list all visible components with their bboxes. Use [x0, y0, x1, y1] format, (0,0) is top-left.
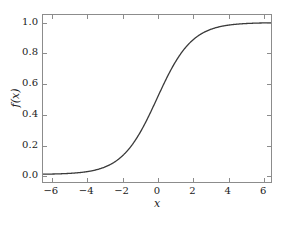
y-tick-label-text: 0.2	[22, 140, 38, 150]
y-tick-label-text: 0.4	[22, 109, 38, 119]
x-tick-label: 4	[225, 186, 231, 196]
x-tick-mark	[52, 178, 53, 182]
y-tick-mark	[43, 146, 47, 147]
x-tick-mark-top	[52, 15, 53, 19]
x-tick-mark-top	[264, 15, 265, 19]
sigmoid-curve-path	[43, 23, 271, 174]
x-tick-label: −6	[43, 186, 58, 196]
x-tick-mark-top	[123, 15, 124, 19]
y-tick-mark	[43, 115, 47, 116]
x-tick-mark-top	[193, 15, 194, 19]
y-tick-mark-right	[267, 146, 271, 147]
x-axis-label: x	[154, 198, 160, 209]
x-tick-label: 6	[260, 186, 266, 196]
x-tick-mark-top	[87, 15, 88, 19]
x-tick-mark-top	[158, 15, 159, 19]
y-tick-label-text: 0.6	[22, 78, 38, 88]
y-tick-mark-right	[267, 53, 271, 54]
y-tick-mark-right	[267, 115, 271, 116]
sigmoid-curve-svg	[43, 15, 271, 182]
x-tick-label: −2	[114, 186, 129, 196]
x-tick-mark	[229, 178, 230, 182]
x-tick-label: 2	[189, 186, 195, 196]
y-tick-label-text: 0.8	[22, 47, 38, 57]
x-tick-mark	[87, 178, 88, 182]
x-tick-mark-top	[229, 15, 230, 19]
x-tick-mark	[123, 178, 124, 182]
x-tick-mark	[158, 178, 159, 182]
y-tick-mark	[43, 53, 47, 54]
x-tick-mark	[264, 178, 265, 182]
y-tick-mark	[43, 84, 47, 85]
y-tick-mark-right	[267, 176, 271, 177]
x-tick-mark	[193, 178, 194, 182]
plot-area	[42, 14, 272, 183]
y-tick-mark	[43, 23, 47, 24]
x-tick-label: −4	[79, 186, 94, 196]
y-tick-label-text: 0.0	[22, 170, 38, 180]
y-axis-label: f(x)	[10, 89, 21, 108]
y-tick-mark	[43, 176, 47, 177]
x-tick-label: 0	[154, 186, 160, 196]
y-tick-mark-right	[267, 23, 271, 24]
y-tick-label-text: 1.0	[22, 17, 38, 27]
y-tick-mark-right	[267, 84, 271, 85]
sigmoid-function-chart: −6−4−20246 0.00.20.40.60.81.0 x f(x)	[0, 0, 282, 225]
